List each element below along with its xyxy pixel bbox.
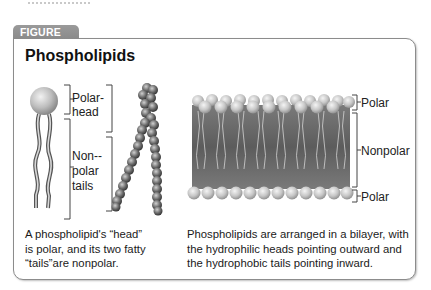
bilayer-label-polar-bottom: Polar xyxy=(361,190,389,204)
right-caption-line: the hydrophobic tails pointing inward. xyxy=(187,256,409,271)
cropped-previous-text xyxy=(28,0,90,4)
bilayer-label-polar-top: Polar xyxy=(361,96,389,110)
figure-title: Phospholipids xyxy=(25,47,135,65)
label-tails: tails xyxy=(72,179,93,193)
bilayer-label-nonpolar: Nonpolar xyxy=(361,144,410,158)
figure-tab: FIGURE 1.6 xyxy=(13,25,79,39)
right-caption-line: the hydrophilic heads pointing outward a… xyxy=(187,242,409,257)
right-caption-line: Phospholipids are arranged in a bilayer,… xyxy=(187,227,409,242)
right-caption: Phospholipids are arranged in a bilayer,… xyxy=(187,227,409,271)
space-filling-model-icon xyxy=(96,80,176,220)
left-caption-line: “tails”are nonpolar. xyxy=(25,256,146,271)
left-caption-line: is polar, and its two fatty xyxy=(25,242,146,257)
left-caption-line: A phospholipid's “head” xyxy=(25,227,146,242)
label-head: head xyxy=(72,105,99,119)
label-polar-2: polar xyxy=(72,164,99,178)
left-caption: A phospholipid's “head” is polar, and it… xyxy=(25,227,146,271)
bilayer-diagram-icon xyxy=(184,93,364,203)
